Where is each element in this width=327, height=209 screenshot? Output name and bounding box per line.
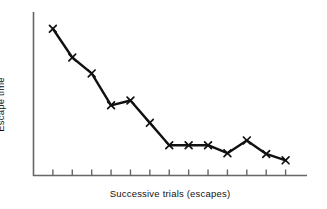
data-point-marker [243,137,250,144]
data-point-marker [88,70,95,77]
data-point-marker [49,25,56,32]
axes-group [33,12,307,176]
plot-area [0,0,327,209]
data-line-series [53,29,286,161]
data-point-marker [69,54,76,61]
x-axis-title: Successive trials (escapes) [33,188,307,199]
escape-time-line-chart: Escape time Successive trials (escapes) [0,0,327,209]
x-axis-ticks [53,170,286,176]
data-point-marker [146,119,153,126]
series-polyline [53,29,286,161]
data-markers-group [49,25,289,163]
